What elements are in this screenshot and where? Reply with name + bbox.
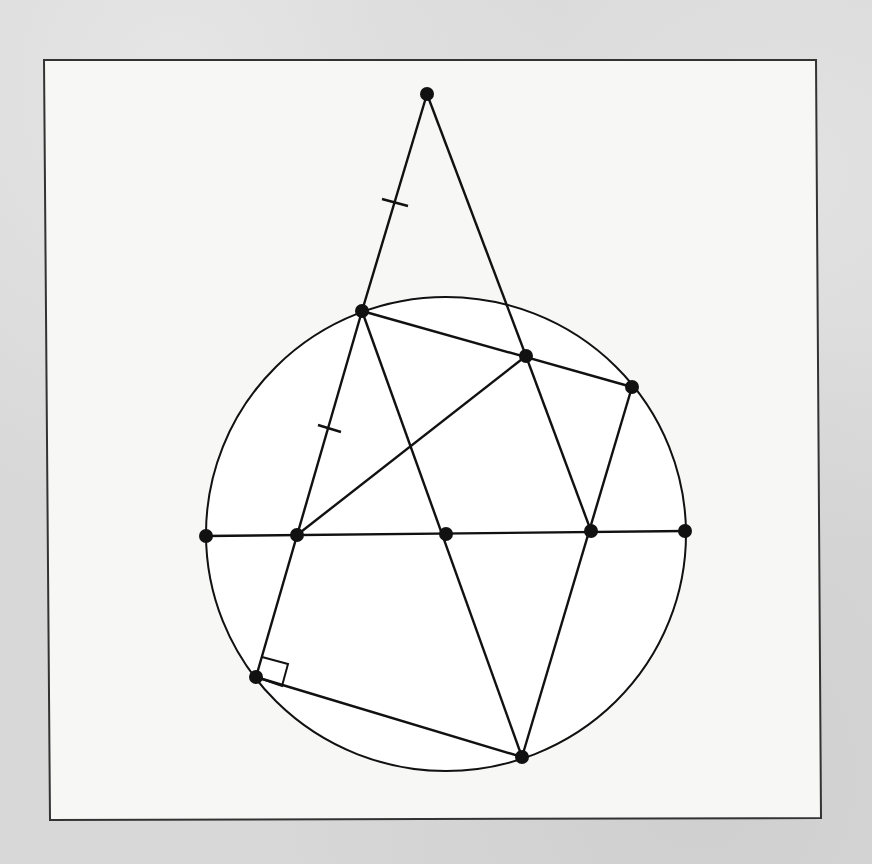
point-upper-mid (519, 349, 533, 363)
point-apex (420, 87, 434, 101)
geometry-figure (0, 0, 872, 864)
point-lower-left (249, 670, 263, 684)
point-upper-left (355, 304, 369, 318)
point-mid-left (290, 528, 304, 542)
point-bottom (515, 750, 529, 764)
point-center (439, 527, 453, 541)
point-mid-right (584, 524, 598, 538)
point-diameter-right (678, 524, 692, 538)
point-diameter-left (199, 529, 213, 543)
point-upper-right (625, 380, 639, 394)
